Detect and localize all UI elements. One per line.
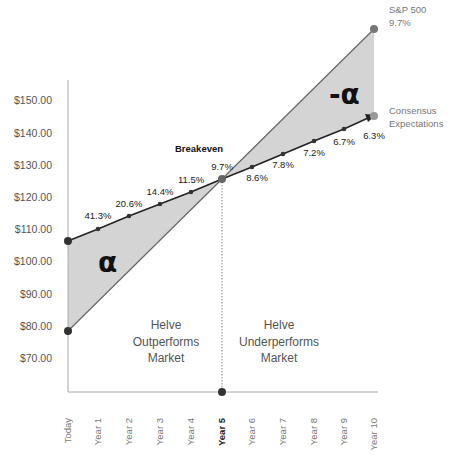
svg-text:Helve: Helve — [151, 318, 182, 332]
svg-text:S&P 500: S&P 500 — [389, 4, 426, 15]
svg-text:Underperforms: Underperforms — [239, 335, 319, 349]
svg-text:6.3%: 6.3% — [363, 130, 385, 141]
svg-text:Consensus: Consensus — [389, 105, 437, 116]
sp500-end-point — [370, 25, 378, 33]
alpha-label: α — [98, 246, 117, 279]
svg-text:Year 6: Year 6 — [246, 418, 257, 445]
svg-text:20.6%: 20.6% — [116, 198, 143, 209]
svg-text:9.7%: 9.7% — [211, 161, 233, 172]
svg-text:11.5%: 11.5% — [178, 174, 205, 185]
svg-text:7.2%: 7.2% — [303, 147, 325, 158]
breakeven-label: Breakeven — [175, 143, 223, 154]
svg-text:$70.00: $70.00 — [20, 352, 52, 364]
start-point-sp500 — [64, 327, 72, 335]
svg-text:$140.00: $140.00 — [14, 127, 52, 139]
consensus-legend-label: Consensus Expectations — [389, 105, 444, 129]
svg-text:Year 10: Year 10 — [368, 418, 379, 450]
start-point-consensus — [64, 237, 72, 245]
outperforms-region-label: Helve Outperforms Market — [133, 318, 200, 365]
svg-text:Year 8: Year 8 — [308, 418, 319, 445]
svg-text:Market: Market — [148, 351, 185, 365]
svg-text:6.7%: 6.7% — [333, 136, 355, 147]
svg-text:$130.00: $130.00 — [14, 159, 52, 171]
x-tick-labels: Today Year 1 Year 2 Year 3 Year 4 Year 5… — [62, 417, 379, 450]
svg-text:Today: Today — [62, 418, 73, 444]
svg-text:9.7%: 9.7% — [389, 17, 411, 28]
svg-text:Helve: Helve — [264, 318, 295, 332]
return-labels: 41.3% 20.6% 14.4% 11.5% 9.7% 8.6% 7.8% 7… — [85, 130, 386, 221]
svg-text:8.6%: 8.6% — [246, 172, 268, 183]
svg-text:14.4%: 14.4% — [147, 186, 174, 197]
negative-alpha-label: -α — [329, 78, 360, 111]
svg-text:Year 3: Year 3 — [154, 418, 165, 445]
svg-text:Year 4: Year 4 — [185, 418, 196, 445]
svg-text:Year 7: Year 7 — [277, 418, 288, 445]
svg-text:$120.00: $120.00 — [14, 191, 52, 203]
y-tick-labels: $150.00 $140.00 $130.00 $120.00 $110.00 … — [14, 94, 52, 364]
svg-text:Outperforms: Outperforms — [133, 335, 200, 349]
svg-text:$100.00: $100.00 — [14, 255, 52, 267]
sp500-legend-label: S&P 500 9.7% — [389, 4, 426, 28]
svg-text:7.8%: 7.8% — [272, 159, 294, 170]
year5-axis-point — [218, 388, 226, 396]
svg-text:Year 2: Year 2 — [123, 418, 134, 445]
svg-text:Year 5: Year 5 — [216, 417, 227, 446]
svg-text:$110.00: $110.00 — [15, 223, 52, 235]
breakeven-point — [218, 175, 226, 183]
svg-text:41.3%: 41.3% — [85, 210, 112, 221]
underperforms-region-label: Helve Underperforms Market — [239, 318, 319, 365]
svg-text:Year 9: Year 9 — [338, 418, 349, 445]
breakeven-chart: $150.00 $140.00 $130.00 $120.00 $110.00 … — [0, 0, 449, 455]
svg-text:Market: Market — [261, 351, 298, 365]
consensus-end-point — [370, 112, 378, 120]
svg-text:$150.00: $150.00 — [14, 94, 52, 106]
svg-text:Expectations: Expectations — [389, 118, 444, 129]
svg-text:Year 1: Year 1 — [92, 418, 103, 445]
svg-text:$90.00: $90.00 — [20, 288, 52, 300]
svg-text:$80.00: $80.00 — [20, 320, 52, 332]
